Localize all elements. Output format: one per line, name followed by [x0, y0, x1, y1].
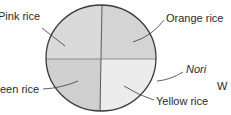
label-nori: Nori: [186, 63, 206, 75]
sushi-diagram: Pink rice Orange rice een rice Nori Yell…: [0, 0, 231, 115]
label-orange-rice: Orange rice: [166, 12, 223, 24]
leader-nori: [157, 72, 183, 81]
roll-quadrants: [40, 0, 162, 115]
label-partial-right: W: [217, 80, 227, 92]
label-yellow-rice: Yellow rice: [156, 95, 208, 107]
label-pink-rice: Pink rice: [0, 10, 40, 22]
quadrant-pink-rice: [40, 0, 102, 59]
quadrant-green-rice: [40, 59, 101, 115]
label-green-rice: een rice: [0, 83, 39, 95]
quadrant-yellow-rice: [101, 59, 162, 115]
quadrant-orange-rice: [102, 0, 162, 59]
